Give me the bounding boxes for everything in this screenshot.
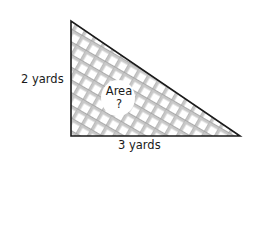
height-label: 2 yards [21, 74, 64, 86]
area-label: Area ? [104, 85, 134, 110]
area-title: Area [104, 85, 134, 98]
base-label: 3 yards [118, 140, 161, 152]
area-value: ? [104, 98, 134, 111]
